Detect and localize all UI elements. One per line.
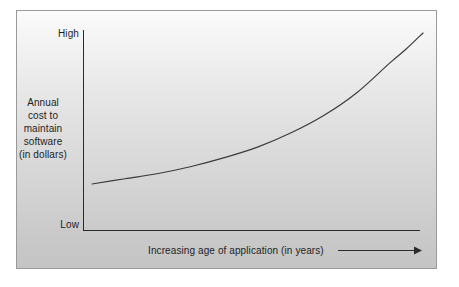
y-axis-title-line-3: maintain <box>8 122 78 135</box>
y-axis-title-line-2: cost to <box>8 109 78 122</box>
y-axis-tick-high: High <box>0 27 79 40</box>
y-axis-title-line-4: software <box>8 135 78 148</box>
x-axis-arrow-head <box>414 247 422 255</box>
y-axis-title: Annual cost to maintain software (in dol… <box>8 96 78 161</box>
chart-figure: High Low Annual cost to maintain softwar… <box>0 0 459 287</box>
y-axis-title-line-5: (in dollars) <box>8 148 78 161</box>
x-axis-title: Increasing age of application (in years) <box>148 244 324 257</box>
data-curve-maintenance-cost <box>92 33 423 184</box>
y-axis-tick-low: Low <box>0 218 79 231</box>
y-axis-title-line-1: Annual <box>8 96 78 109</box>
